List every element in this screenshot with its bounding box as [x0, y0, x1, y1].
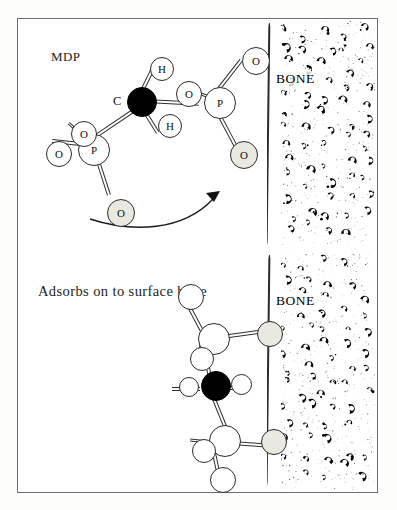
- atom-b-oxygen-lower-sub: [192, 439, 216, 463]
- atom-oxygen-left-a: O: [46, 141, 72, 167]
- atom-b-hydrogen-right: [231, 374, 252, 395]
- atom-carbon: [127, 87, 157, 117]
- bone-label-bottom: BONE: [275, 293, 316, 309]
- atom-b-oxygen-upper-sub: [190, 347, 214, 371]
- atom-b-oxygen-lower-right: [261, 429, 287, 455]
- atom-b-oxygen-upper-top: [178, 284, 204, 310]
- bone-region-top: [267, 19, 379, 251]
- bone-texture-bottom: [281, 253, 375, 490]
- atom-hydrogen-upper: H: [150, 57, 174, 81]
- atom-carbon-label: C: [113, 94, 121, 109]
- atom-oxygen-right-c: O: [230, 141, 258, 169]
- atom-b-carbon: [201, 371, 231, 401]
- atom-b-oxygen-lower-bottom: [210, 467, 236, 493]
- atom-b-oxygen-upper-right: [257, 321, 283, 347]
- atom-oxygen-right-b: O: [242, 47, 270, 75]
- bone-texture-top: [281, 21, 375, 249]
- mdp-caption: MDP: [51, 49, 80, 65]
- panel-mdp-adsorbed: Adsorbs on to surface bone: [18, 251, 377, 492]
- bone-region-bottom: [267, 251, 379, 492]
- atom-oxygen-left-c: O: [107, 199, 135, 227]
- panel-mdp-free: MDP C H H P O O O P: [18, 19, 377, 251]
- bone-label-top: BONE: [275, 71, 316, 87]
- atom-oxygen-left-b: O: [71, 121, 97, 147]
- atom-b-hydrogen-left: [179, 377, 199, 397]
- atom-hydrogen-lower: H: [158, 114, 182, 138]
- atom-oxygen-right-a: O: [176, 81, 202, 107]
- figure-frame: MDP C H H P O O O P: [17, 18, 378, 493]
- atom-phosphorus-right: P: [204, 87, 236, 119]
